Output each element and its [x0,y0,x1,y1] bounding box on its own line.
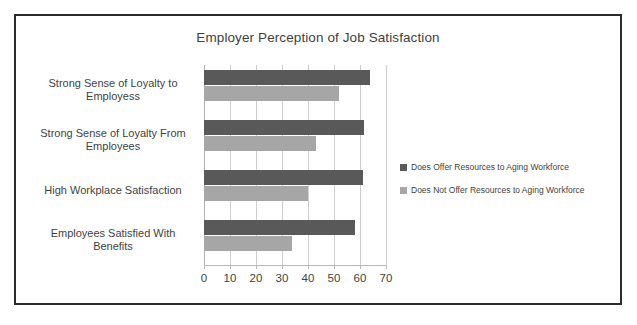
category-label: Strong Sense of Loyalty toEmployess [26,77,200,103]
bar-group [204,115,386,165]
category-label-line: Employees [26,140,200,153]
x-axis-line [204,265,386,266]
chart-legend: Does Offer Resources to Aging WorkforceD… [400,162,616,208]
category-label-line: Employees Satisfied With [26,227,200,240]
bar[interactable] [204,170,363,185]
tick-mark [386,265,387,269]
plot-area [204,65,386,265]
legend-label: Does Not Offer Resources to Aging Workfo… [411,185,585,195]
chart-title: Employer Perception of Job Satisfaction [16,30,620,45]
tick-mark [282,265,283,269]
tick-mark [308,265,309,269]
category-label-line: Strong Sense of Loyalty From [26,127,200,140]
bar-group [204,165,386,215]
tick-mark [256,265,257,269]
tick-mark [230,265,231,269]
x-tick-label: 70 [371,272,401,284]
gridline [386,65,387,265]
legend-swatch-icon [400,187,407,194]
tick-mark [360,265,361,269]
chart-frame: Employer Perception of Job Satisfaction … [14,14,622,305]
category-label: Strong Sense of Loyalty FromEmployees [26,127,200,153]
bar[interactable] [204,236,292,251]
tick-mark [334,265,335,269]
legend-item[interactable]: Does Not Offer Resources to Aging Workfo… [400,185,616,195]
legend-item[interactable]: Does Offer Resources to Aging Workforce [400,162,616,172]
legend-label: Does Offer Resources to Aging Workforce [411,162,569,172]
category-label-line: Employess [26,90,200,103]
bar[interactable] [204,70,370,85]
bar[interactable] [204,136,316,151]
bar-group [204,215,386,265]
legend-swatch-icon [400,164,407,171]
bar-group [204,65,386,115]
category-label-line: Benefits [26,240,200,253]
tick-mark [204,265,205,269]
bar[interactable] [204,120,364,135]
bar[interactable] [204,220,355,235]
category-label: Employees Satisfied WithBenefits [26,227,200,253]
category-label-line: Strong Sense of Loyalty to [26,77,200,90]
category-label: High Workplace Satisfaction [26,184,200,197]
bar[interactable] [204,86,339,101]
category-label-line: High Workplace Satisfaction [26,184,200,197]
bar[interactable] [204,186,308,201]
